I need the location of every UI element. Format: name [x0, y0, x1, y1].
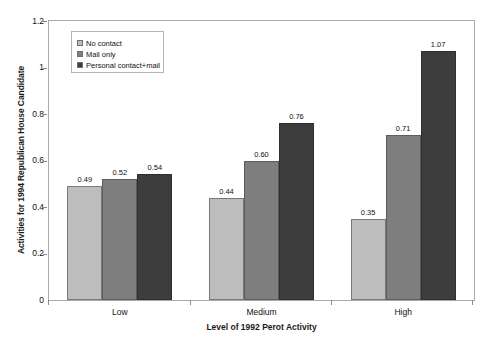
bar-value-label: 0.49: [63, 176, 107, 184]
legend-swatch-icon: [77, 62, 83, 68]
bar-value-label: 0.60: [240, 151, 284, 159]
x-axis-tick-mark: [48, 300, 49, 305]
bar-value-label: 1.07: [416, 41, 460, 49]
y-axis-tick-label: 0.6: [4, 156, 44, 165]
y-axis-tick-mark: [43, 207, 47, 208]
legend-label: Personal contact+mail: [86, 61, 160, 70]
legend-label: Mail only: [86, 50, 116, 59]
bar-value-label: 0.54: [133, 164, 177, 172]
legend-item[interactable]: Mail only: [77, 49, 163, 59]
bar-group-high: 0.350.711.07: [351, 21, 456, 300]
y-axis-tick-mark: [43, 254, 47, 255]
bar[interactable]: [137, 174, 172, 300]
bar[interactable]: [209, 198, 244, 300]
legend-swatch-icon: [77, 40, 83, 46]
legend: No contactMail onlyPersonal contact+mail: [71, 31, 164, 73]
x-axis-tick-mark: [331, 300, 332, 305]
y-axis-tick-mark: [43, 21, 47, 22]
legend-label: No contact: [86, 39, 122, 48]
x-axis-tick-mark: [190, 300, 191, 305]
legend-item[interactable]: No contact: [77, 38, 163, 48]
y-axis-tick-label: 0.2: [4, 249, 44, 258]
bar-value-label: 0.71: [381, 125, 425, 133]
y-axis-tick-label: 1.2: [4, 17, 44, 26]
bar[interactable]: [386, 135, 421, 300]
bar[interactable]: [67, 186, 102, 300]
legend-item[interactable]: Personal contact+mail: [77, 60, 163, 70]
bar[interactable]: [279, 123, 314, 300]
bar[interactable]: [421, 51, 456, 300]
x-axis-tick-mark: [472, 300, 473, 305]
x-axis-category-label: Medium: [217, 307, 307, 317]
bar[interactable]: [351, 219, 386, 300]
x-axis-category-label: Low: [75, 307, 165, 317]
y-axis-tick-mark: [43, 68, 47, 69]
bar[interactable]: [102, 179, 137, 300]
bar-group-medium: 0.440.600.76: [209, 21, 314, 300]
y-axis-tick-label: 0: [4, 296, 44, 305]
legend-swatch-icon: [77, 51, 83, 57]
y-axis-tick-label: 0.8: [4, 110, 44, 119]
bar-value-label: 0.44: [205, 188, 249, 196]
y-axis-tick-mark: [43, 161, 47, 162]
x-axis: [48, 300, 475, 306]
bar-value-label: 0.35: [346, 209, 390, 217]
y-axis-tick-label: 1: [4, 63, 44, 72]
bar-value-label: 0.76: [275, 113, 319, 121]
y-axis: 00.20.40.60.811.2: [0, 0, 44, 342]
y-axis-tick-mark: [43, 114, 47, 115]
x-axis-category-label: High: [358, 307, 448, 317]
bar[interactable]: [244, 161, 279, 301]
y-axis-tick-label: 0.4: [4, 203, 44, 212]
x-axis-title: Level of 1992 Perot Activity: [48, 322, 475, 332]
